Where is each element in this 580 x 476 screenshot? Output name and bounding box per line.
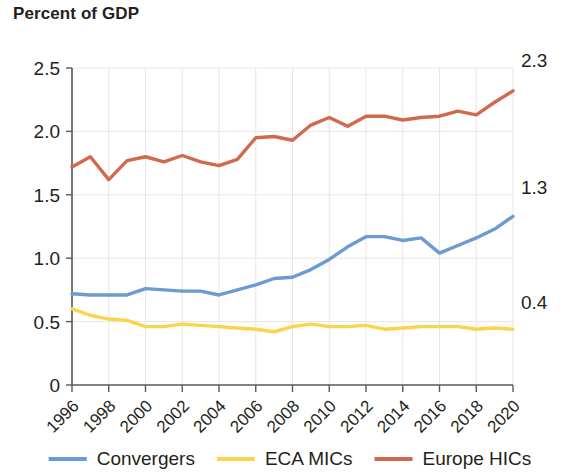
- line-chart: 00.51.01.52.02.5 19961998200020022004200…: [0, 0, 580, 476]
- x-axis-tick-label: 2004: [190, 396, 230, 436]
- legend-label-eca-mics[interactable]: ECA MICs: [265, 448, 353, 469]
- y-axis-tick-label: 1.5: [34, 185, 60, 206]
- x-axis-ticks: [72, 385, 513, 392]
- x-axis-tick-label: 2020: [484, 396, 524, 436]
- chart-legend: ConvergersECA MICsEurope HICs: [49, 448, 532, 469]
- x-axis-tick-label: 2012: [337, 396, 377, 436]
- legend-label-convergers[interactable]: Convergers: [97, 448, 195, 469]
- x-axis-tick-label: 2016: [410, 396, 450, 436]
- x-axis-tick-label: 2018: [447, 396, 487, 436]
- x-axis-tick-label: 2010: [300, 396, 340, 436]
- x-axis-tick-label: 2006: [226, 396, 266, 436]
- x-axis-labels: 1996199820002002200420062008201020122014…: [43, 396, 524, 436]
- y-axis-tick-label: 0: [49, 375, 60, 396]
- x-axis-tick-label: 2002: [153, 396, 193, 436]
- y-axis-tick-label: 2.0: [34, 121, 60, 142]
- y-axis-ticks: [66, 68, 72, 385]
- end-label-convergers: 1.3: [521, 177, 547, 198]
- chart-container: Percent of GDP 00.51.01.52.02.5 19961998…: [0, 0, 580, 476]
- x-axis-tick-label: 2000: [116, 396, 156, 436]
- x-axis-tick-label: 2014: [373, 396, 413, 436]
- end-label-europe-hics: 2.3: [521, 50, 547, 71]
- x-axis-tick-label: 2008: [263, 396, 303, 436]
- end-label-eca-mics: 0.4: [521, 292, 548, 313]
- y-axis-labels: 00.51.01.52.02.5: [34, 58, 60, 396]
- x-axis-tick-label: 1996: [43, 396, 83, 436]
- y-axis-tick-label: 1.0: [34, 248, 60, 269]
- y-axis-tick-label: 2.5: [34, 58, 60, 79]
- legend-label-europe-hics[interactable]: Europe HICs: [423, 448, 532, 469]
- y-axis-tick-label: 0.5: [34, 312, 60, 333]
- x-axis-tick-label: 1998: [79, 396, 119, 436]
- series-end-labels: 1.30.42.3: [521, 50, 548, 313]
